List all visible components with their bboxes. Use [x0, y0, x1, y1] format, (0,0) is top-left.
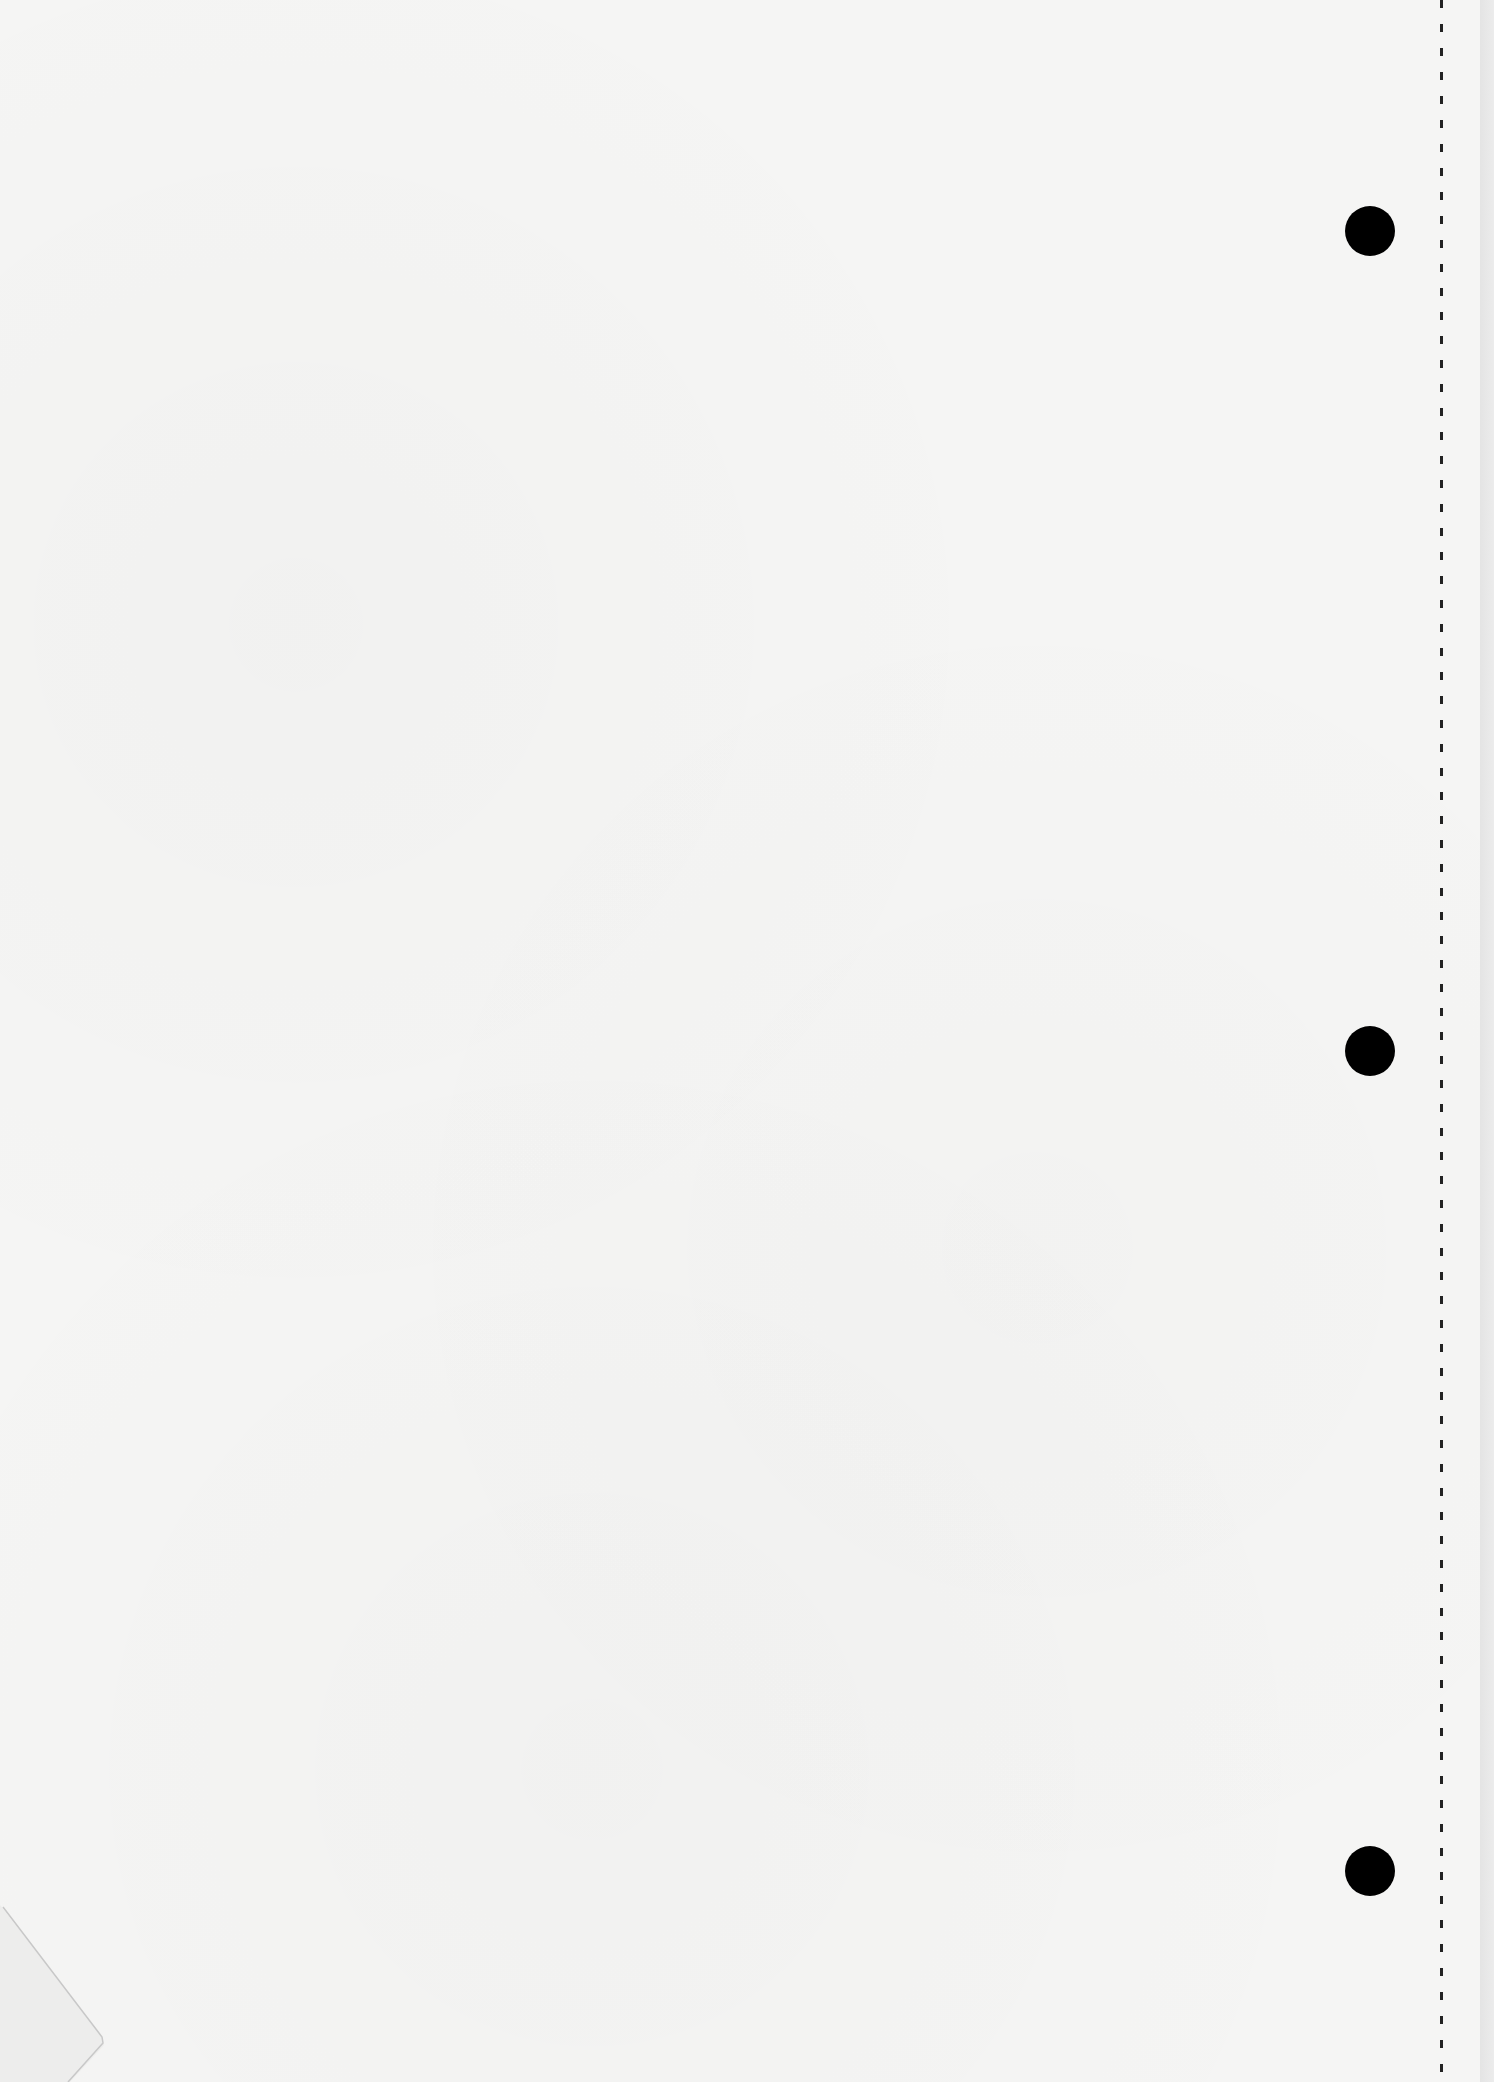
punch-hole-top: [1345, 206, 1395, 256]
perforation-line: [1440, 0, 1443, 2082]
punch-hole-middle: [1345, 1026, 1395, 1076]
punch-hole-bottom: [1345, 1846, 1395, 1896]
paper-edge-strip: [1480, 0, 1494, 2082]
folded-corner-icon: [0, 1905, 110, 2082]
paper-sheet: [0, 0, 1480, 2082]
